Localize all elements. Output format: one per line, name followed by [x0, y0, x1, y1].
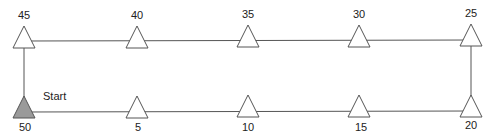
label-45: 45 [18, 9, 30, 21]
label-40: 40 [131, 9, 143, 21]
marker-30-triangle-icon [348, 25, 370, 47]
marker-5-triangle-icon [126, 96, 148, 118]
label-30: 30 [353, 8, 365, 20]
label-50: 50 [19, 121, 31, 133]
label-5: 5 [135, 121, 141, 133]
marker-15-triangle-icon [348, 95, 370, 117]
label-15: 15 [355, 121, 367, 133]
label-25: 25 [465, 7, 477, 19]
label-10: 10 [242, 121, 254, 133]
marker-35-triangle-icon [237, 25, 259, 47]
marker-10-triangle-icon [237, 95, 259, 117]
label-20: 20 [465, 119, 477, 131]
label-35: 35 [242, 8, 254, 20]
marker-40-triangle-icon [126, 26, 148, 48]
start-marker-50-triangle-icon [13, 96, 35, 118]
loop-diagram [0, 0, 493, 139]
marker-25-triangle-icon [460, 24, 482, 46]
marker-45-triangle-icon [13, 26, 35, 48]
marker-20-triangle-icon [460, 95, 482, 117]
start-label: Start [43, 90, 66, 102]
